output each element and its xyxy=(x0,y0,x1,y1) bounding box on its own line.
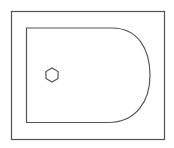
outer-border-rect xyxy=(12,12,165,140)
hexagonal-hole xyxy=(46,68,58,82)
drawing-canvas xyxy=(0,0,174,148)
d-shaped-plate xyxy=(27,28,151,123)
